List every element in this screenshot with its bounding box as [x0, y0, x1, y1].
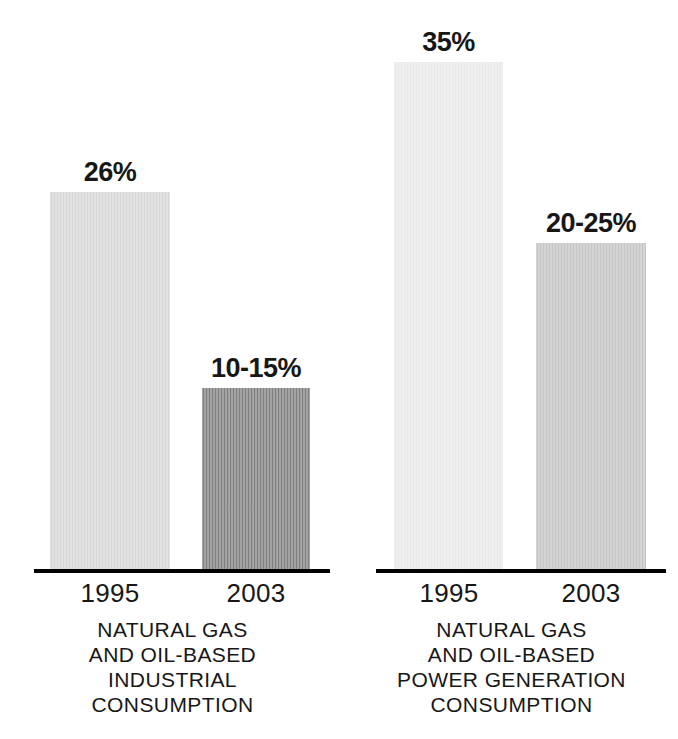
chart-caption-left-line2: AND OIL-BASED [0, 642, 345, 667]
x-tick-label-left-1995: 1995 [80, 578, 139, 609]
chart-caption-right-line4: CONSUMPTION [345, 692, 678, 717]
chart-caption-left-line1: NATURAL GAS [0, 617, 345, 642]
bar-left-1995: 26% [50, 192, 170, 569]
bar-value-label-right-1995: 35% [422, 27, 475, 58]
plot-area-left: 26% 10-15% [0, 0, 345, 569]
bar-value-label-right-2003: 20-25% [546, 208, 636, 239]
bar-right-2003: 20-25% [536, 243, 646, 569]
bar-chart-figure: 26% 10-15% 1995 2003 NATURAL GAS AND OIL… [0, 0, 678, 739]
chart-caption-right: NATURAL GAS AND OIL-BASED POWER GENERATI… [345, 617, 678, 717]
bar-right-1995: 35% [394, 62, 503, 569]
chart-caption-right-line3: POWER GENERATION [345, 667, 678, 692]
x-tick-label-right-2003: 2003 [561, 578, 620, 609]
axis-baseline-right [376, 569, 666, 573]
x-tick-label-right-1995: 1995 [419, 578, 478, 609]
chart-caption-left-line3: INDUSTRIAL [0, 667, 345, 692]
bar-value-label-left-2003: 10-15% [211, 353, 301, 384]
chart-panel-industrial-consumption: 26% 10-15% 1995 2003 NATURAL GAS AND OIL… [0, 0, 345, 739]
plot-area-right: 35% 20-25% [345, 0, 678, 569]
chart-caption-left-line4: CONSUMPTION [0, 692, 345, 717]
chart-caption-right-line1: NATURAL GAS [345, 617, 678, 642]
axis-baseline-left [34, 569, 330, 573]
chart-panel-power-generation-consumption: 35% 20-25% 1995 2003 NATURAL GAS AND OIL… [345, 0, 678, 739]
chart-caption-left: NATURAL GAS AND OIL-BASED INDUSTRIAL CON… [0, 617, 345, 717]
bar-value-label-left-1995: 26% [84, 157, 137, 188]
bar-left-2003: 10-15% [202, 388, 310, 569]
chart-caption-right-line2: AND OIL-BASED [345, 642, 678, 667]
x-tick-label-left-2003: 2003 [226, 578, 285, 609]
